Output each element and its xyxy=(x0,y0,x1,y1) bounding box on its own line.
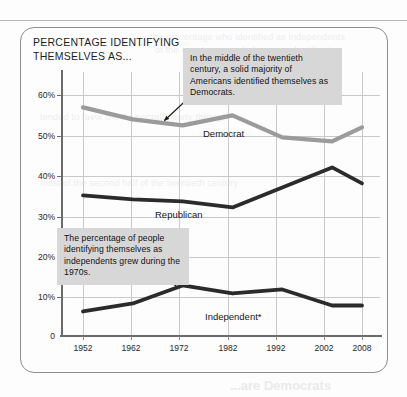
series-label-republican: Republican xyxy=(155,209,203,220)
democrat-callout: In the middle of the twentieth century, … xyxy=(183,48,342,105)
line-independent xyxy=(83,285,362,311)
independent-callout: The percentage of people identifying the… xyxy=(57,228,189,285)
line-republican xyxy=(83,167,362,207)
series-label-democrat: Democrat xyxy=(203,128,244,139)
series-label-independent: Independent* xyxy=(205,311,262,322)
